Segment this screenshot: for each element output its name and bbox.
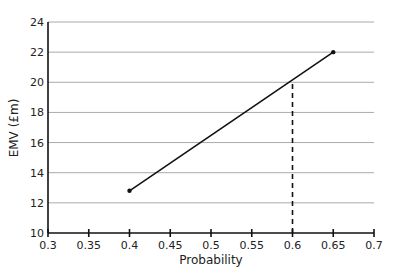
x-tick-label: 0.4	[121, 239, 139, 252]
x-tick-label: 0.35	[77, 239, 102, 252]
x-tick-label: 0.5	[202, 239, 220, 252]
x-tick-labels: 0.30.350.40.450.50.550.60.650.7	[39, 239, 383, 252]
x-axis-title: Probability	[179, 253, 242, 267]
series-line	[130, 52, 334, 191]
x-tick-label: 0.7	[365, 239, 383, 252]
x-tick-label: 0.45	[158, 239, 183, 252]
y-tick-label: 22	[30, 46, 44, 59]
y-tick-label: 20	[30, 76, 44, 89]
x-tick-label: 0.65	[321, 239, 346, 252]
y-tick-label: 14	[30, 167, 44, 180]
y-tick-label: 12	[30, 197, 44, 210]
emv-chart: 1012141618202224 0.30.350.40.450.50.550.…	[0, 0, 396, 278]
gridlines	[48, 22, 374, 203]
y-axis-title: EMV (£m)	[7, 99, 21, 158]
y-tick-label: 18	[30, 106, 44, 119]
y-tick-labels: 1012141618202224	[30, 16, 44, 240]
y-tick-label: 24	[30, 16, 44, 29]
x-tick-label: 0.3	[39, 239, 57, 252]
data-point	[127, 189, 131, 193]
y-tick-label: 16	[30, 137, 44, 150]
x-tick-label: 0.6	[284, 239, 302, 252]
data-point	[331, 50, 335, 54]
emv-series	[127, 50, 335, 193]
x-tick-label: 0.55	[240, 239, 265, 252]
